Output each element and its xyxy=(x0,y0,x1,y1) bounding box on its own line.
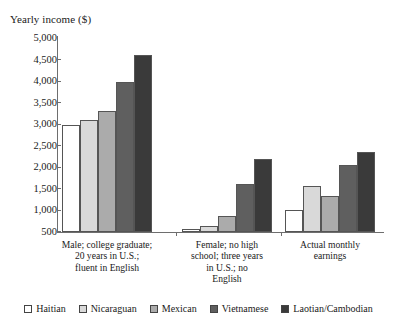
bar-chart: Yearly income ($) 5,0004,5004,0003,5003,… xyxy=(0,0,397,335)
bar xyxy=(182,229,200,232)
x-axis-group-label: Actual monthly earnings xyxy=(268,239,392,262)
legend-item[interactable]: Vietnamese xyxy=(210,303,269,314)
bar xyxy=(98,111,116,232)
legend-item[interactable]: Laotian/Cambodian xyxy=(281,303,372,314)
y-axis-tick-label: 1,000 xyxy=(9,205,57,216)
y-axis-tick-label: 3,500 xyxy=(9,98,57,109)
bar xyxy=(200,226,218,232)
x-axis-group-label: Male; college graduate; 20 years in U.S.… xyxy=(45,239,169,273)
legend-item[interactable]: Nicaraguan xyxy=(79,303,137,314)
bar xyxy=(116,82,134,232)
legend-label: Laotian/Cambodian xyxy=(293,303,372,314)
legend-item[interactable]: Mexican xyxy=(150,303,197,314)
legend-swatch-icon xyxy=(281,305,289,313)
legend-swatch-icon xyxy=(24,305,32,313)
legend-swatch-icon xyxy=(210,305,218,313)
y-axis-tick-label: 4,500 xyxy=(9,55,57,66)
x-axis-line xyxy=(57,232,384,233)
x-axis-group-separator xyxy=(176,232,177,236)
bar xyxy=(321,196,339,232)
y-axis-tick-label: 5,000 xyxy=(9,33,57,44)
y-axis-tick-labels: 5,0004,5004,0003,5003,0002,5002,0001,500… xyxy=(0,0,57,335)
bar xyxy=(357,152,375,232)
y-axis-tick-label: 2,500 xyxy=(9,141,57,152)
legend-label: Haitian xyxy=(36,303,65,314)
y-axis-tick-label: 4,000 xyxy=(9,76,57,87)
x-axis-group-separator xyxy=(281,232,282,236)
legend-label: Mexican xyxy=(162,303,197,314)
legend-swatch-icon xyxy=(79,305,87,313)
bar xyxy=(254,159,272,232)
legend-label: Nicaraguan xyxy=(91,303,137,314)
bar xyxy=(62,125,80,232)
plot-area xyxy=(58,38,380,232)
bar xyxy=(285,210,303,232)
bar xyxy=(134,55,152,232)
legend-item[interactable]: Haitian xyxy=(24,303,65,314)
bar xyxy=(236,184,254,232)
y-axis-tick-label: 500 xyxy=(9,227,57,238)
bar xyxy=(80,120,98,232)
y-axis-tick-label: 3,000 xyxy=(9,119,57,130)
legend: HaitianNicaraguanMexicanVietnameseLaotia… xyxy=(0,303,397,314)
legend-label: Vietnamese xyxy=(222,303,269,314)
bar xyxy=(218,216,236,232)
bar xyxy=(339,165,357,232)
legend-swatch-icon xyxy=(150,305,158,313)
bar xyxy=(303,186,321,232)
y-axis-tick-label: 2,000 xyxy=(9,162,57,173)
y-axis-tick-label: 1,500 xyxy=(9,184,57,195)
